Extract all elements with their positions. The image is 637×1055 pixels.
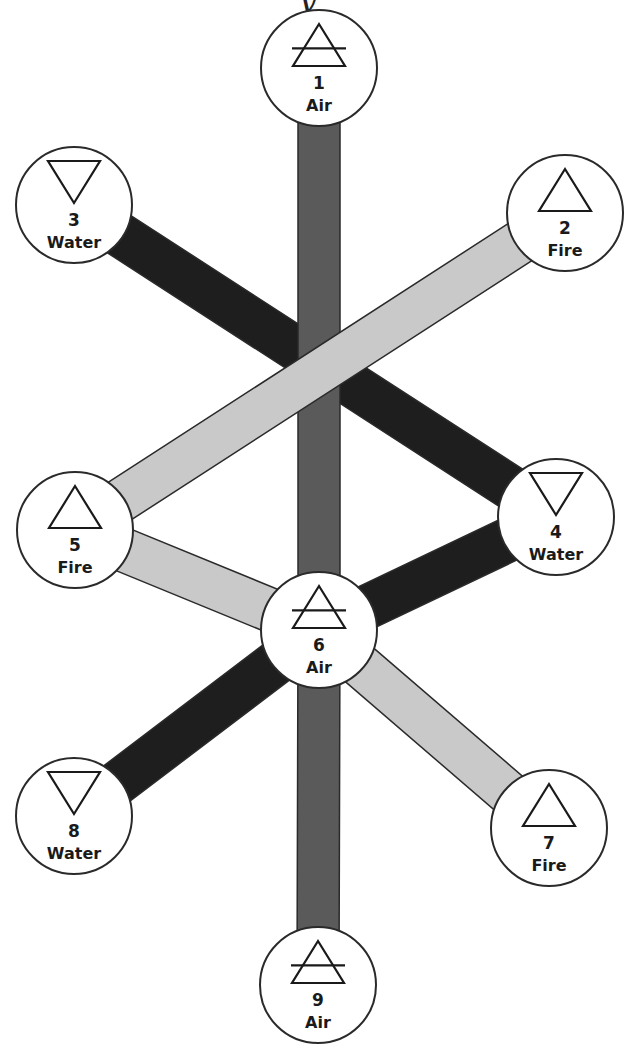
node-6-air: 6Air [261,572,377,688]
node-4-water: 4Water [498,459,614,575]
node-7-fire: 7Fire [491,770,607,886]
node-element-label: Water [47,233,101,252]
element-diagram: 1Air2Fire3Water4Water5Fire6Air7Fire8Wate… [0,0,637,1055]
node-number: 9 [312,990,324,1010]
node-2-fire: 2Fire [507,155,623,271]
node-number: 4 [550,522,562,542]
node-number: 5 [69,535,81,555]
node-element-label: Fire [547,241,582,260]
node-element-label: Water [529,545,583,564]
node-number: 6 [313,635,325,655]
node-element-label: Air [306,658,332,677]
node-5-fire: 5Fire [17,472,133,588]
node-number: 2 [559,218,571,238]
node-element-label: Fire [57,558,92,577]
node-number: 1 [313,73,325,93]
node-number: 7 [543,833,555,853]
node-8-water: 8Water [16,758,132,874]
node-element-label: Water [47,844,101,863]
node-9-air: 9Air [260,927,376,1043]
node-element-label: Fire [531,856,566,875]
node-number: 8 [68,821,80,841]
node-element-label: Air [305,1013,331,1032]
node-3-water: 3Water [16,147,132,263]
node-element-label: Air [306,96,332,115]
node-number: 3 [68,210,80,230]
node-1-air: 1Air [261,10,377,126]
